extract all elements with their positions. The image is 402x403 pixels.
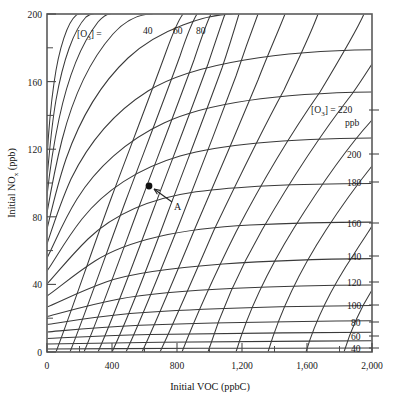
- y-axis-label-40: 40: [32, 279, 42, 290]
- y-axis-label-160: 160: [28, 77, 43, 88]
- x-axis-label-1600: 1,600: [296, 360, 318, 371]
- right-label-40: 40: [351, 343, 361, 354]
- point-a-label: A: [174, 201, 182, 212]
- y-axis-label-120: 120: [28, 144, 43, 155]
- top-label-40: 40: [143, 25, 153, 36]
- x-axis-label-400: 400: [105, 360, 120, 371]
- right-label-200: 200: [347, 149, 362, 160]
- right-label-160: 160: [347, 218, 362, 229]
- figure-background: [0, 0, 402, 403]
- right-label-60: 60: [351, 331, 361, 342]
- x-axis-label-0: 0: [45, 360, 50, 371]
- ozone-isopleth-figure: A [O3] = 40 60 80 [O3] = 220 ppb 200 180…: [0, 0, 402, 403]
- top-label-80: 80: [196, 25, 206, 36]
- x-axis-label-800: 800: [170, 360, 185, 371]
- y-axis-label-200: 200: [28, 9, 43, 20]
- isopleth-svg: A [O3] = 40 60 80 [O3] = 220 ppb 200 180…: [0, 0, 402, 403]
- right-label-100: 100: [347, 300, 362, 311]
- y-axis-label-80: 80: [32, 212, 42, 223]
- right-label-80: 80: [351, 317, 361, 328]
- right-label-140: 140: [347, 251, 362, 262]
- o3-unit-ppb: ppb: [345, 117, 360, 128]
- right-label-180: 180: [347, 177, 362, 188]
- top-label-60: 60: [173, 25, 183, 36]
- x-axis-title: Initial VOC (ppbC): [170, 381, 250, 393]
- x-axis-label-1200: 1,200: [231, 360, 253, 371]
- y-axis-label-0: 0: [37, 347, 42, 358]
- point-a-dot: [146, 183, 153, 190]
- x-axis-label-2000: 2,000: [361, 360, 383, 371]
- right-label-120: 120: [347, 277, 362, 288]
